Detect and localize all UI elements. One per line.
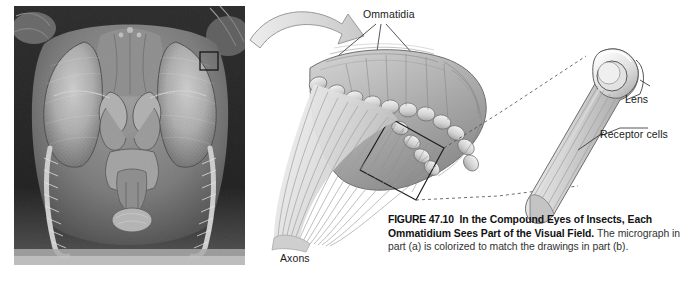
label-receptor-cells: Receptor cells [600,128,670,140]
figure-number: FIGURE 47.10 [388,214,454,225]
label-lens: Lens [625,93,648,105]
label-ommatidia: Ommatidia [363,8,415,20]
transition-arrow-icon [250,12,364,48]
figure-caption: FIGURE 47.10 In the Compound Eyes of Ins… [388,213,694,254]
figure-47-10: Ommatidia Lens Receptor cells Axons FIGU… [0,0,698,282]
micrograph-svg [14,6,245,265]
insect-head-micrograph [14,6,245,265]
label-axons: Axons [280,252,310,264]
micrograph-content [14,6,245,265]
